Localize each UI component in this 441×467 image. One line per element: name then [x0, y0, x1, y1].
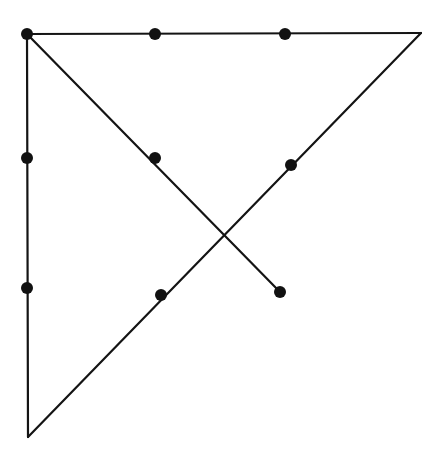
segments-group: [27, 33, 421, 437]
point-hypotenuse-lower-point: [155, 289, 167, 301]
point-top-edge-midpoint: [149, 28, 161, 40]
segment-left-edge: [27, 34, 28, 437]
geometric-figure-svg: [0, 0, 441, 467]
point-left-edge-upper-point: [21, 152, 33, 164]
point-descending-diagonal-mid: [149, 152, 161, 164]
point-top-edge-right-point: [279, 28, 291, 40]
point-top-left-corner: [21, 28, 33, 40]
figure-canvas: [0, 0, 441, 467]
point-hypotenuse-upper-point: [285, 159, 297, 171]
point-left-edge-lower-point: [21, 282, 33, 294]
point-descending-diagonal-end: [274, 286, 286, 298]
segment-top-edge: [27, 33, 421, 34]
